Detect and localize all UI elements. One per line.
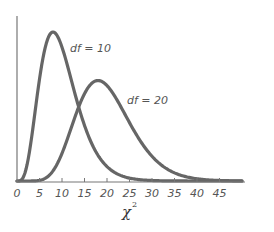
x-axis-label-superscript: 2 xyxy=(132,200,137,209)
x-tick-label: 45 xyxy=(213,187,227,200)
x-tick-label: 10 xyxy=(55,187,69,200)
label-df20: df = 20 xyxy=(127,94,168,107)
label-df10: df = 10 xyxy=(70,42,111,55)
x-tick-label: 20 xyxy=(100,187,114,200)
x-axis-label: χ xyxy=(121,203,132,221)
x-tick-label: 0 xyxy=(14,187,21,200)
chi-square-chart: 051015202530354045 df = 10 df = 20 χ 2 xyxy=(0,0,274,232)
x-tick-label: 5 xyxy=(36,187,43,200)
x-tick-label: 25 xyxy=(123,187,137,200)
x-tick-label: 15 xyxy=(78,187,92,200)
x-tick-label: 35 xyxy=(168,187,182,200)
x-tick-label: 30 xyxy=(145,187,159,200)
x-tick-label: 40 xyxy=(190,187,204,200)
